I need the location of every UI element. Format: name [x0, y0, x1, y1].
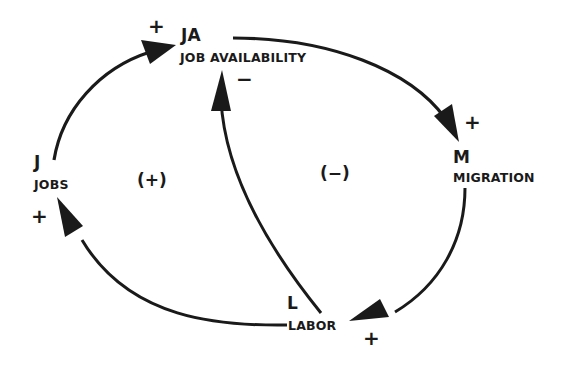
polarity-jobs-to-ja: + — [148, 16, 165, 36]
arrowhead-icon — [57, 197, 83, 237]
node-l-abbr: L — [287, 293, 298, 313]
arrow-migration-to-labor — [395, 188, 465, 312]
arrowhead-icon — [349, 299, 389, 321]
node-migration-label: MIGRATION — [453, 170, 535, 185]
loop-label-negative: (−) — [320, 163, 350, 183]
arrow-labor-to-jobs — [82, 240, 287, 325]
polarity-labor-to-ja: − — [236, 69, 253, 89]
polarity-labor-to-jobs: + — [31, 206, 48, 226]
arrow-jobs-to-job-availability — [54, 52, 150, 160]
arrowhead-icon — [211, 70, 231, 111]
loop-label-positive: (+) — [137, 170, 167, 190]
node-labor-label: LABOR — [288, 318, 336, 333]
node-jobs-label: JOBS — [34, 177, 69, 192]
node-j-abbr: J — [34, 152, 41, 172]
polarity-ja-to-migration: + — [464, 112, 481, 132]
node-job-availability-label: JOB AVAILABILITY — [180, 50, 306, 65]
polarity-migration-to-labor: + — [363, 328, 380, 348]
node-m-abbr: M — [453, 147, 470, 167]
node-ja-abbr: JA — [181, 25, 201, 45]
arrowhead-icon — [141, 40, 176, 64]
arrow-labor-to-job-availability — [221, 100, 321, 313]
